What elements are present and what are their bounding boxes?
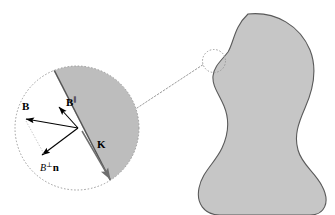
magnified-view-group (15, 56, 152, 207)
figure-root: B B∥ B⊥n K (0, 0, 335, 215)
label-B-parallel-superscript: ∥ (73, 96, 76, 104)
diagram-canvas: B B∥ B⊥n K (0, 0, 335, 215)
label-vector-B: B (22, 100, 30, 112)
label-B-perp-superscript: ⊥ (46, 161, 53, 169)
callout-connector-line (134, 64, 204, 110)
label-B-perp-suffix: n (53, 161, 59, 173)
callout-connector-group (134, 64, 204, 110)
conducting-body-shape (198, 14, 326, 215)
label-vector-K: K (97, 138, 106, 150)
conducting-body-group (198, 14, 326, 215)
